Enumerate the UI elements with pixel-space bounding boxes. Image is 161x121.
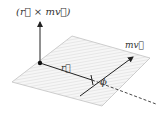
momentum-label: mv⃗ <box>125 40 144 50</box>
angle-label: ϕ <box>100 76 107 87</box>
position-label: r⃗ <box>61 63 71 73</box>
angular-momentum-label: (r⃗ × mv⃗) <box>16 6 71 17</box>
origin-point <box>38 61 42 65</box>
angular-momentum-diagram: (r⃗ × mv⃗) mv⃗ r⃗ ϕ <box>0 0 161 121</box>
